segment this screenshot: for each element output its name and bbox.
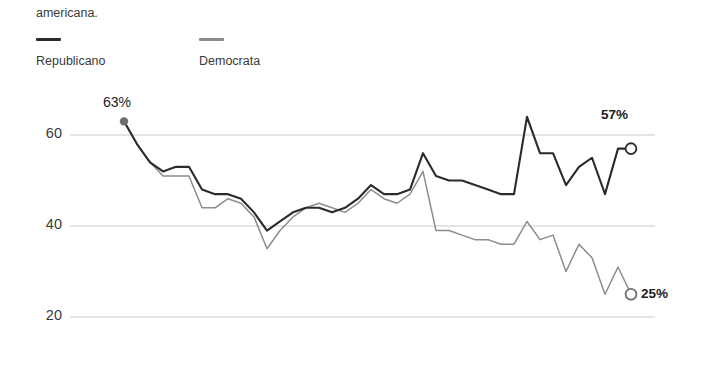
- legend-item-republicano[interactable]: Republicano: [36, 38, 106, 68]
- gridlines: [70, 135, 655, 317]
- paragraph-tail: americana.: [36, 5, 98, 21]
- y-axis-tick-label: 20: [28, 307, 62, 323]
- series-markers: [120, 117, 637, 300]
- legend-label-democrata: Democrata: [199, 54, 260, 68]
- chart-svg: [0, 86, 713, 336]
- democrata-end-label: 25%: [641, 286, 668, 301]
- line-swatch-icon: [36, 38, 61, 41]
- clipped-text-row: [0, 0, 713, 9]
- line-chart-plot: [0, 86, 713, 336]
- end-point-marker-republicano: [626, 143, 637, 154]
- start-point-marker: [120, 117, 128, 125]
- republicano-end-label: 57%: [601, 107, 628, 122]
- start-value-label: 63%: [103, 94, 131, 110]
- line-swatch-icon: [199, 38, 224, 41]
- end-point-marker-democrata: [626, 289, 637, 300]
- chart-page: americana. Republicano Democrata 204060 …: [0, 0, 713, 391]
- legend-item-democrata[interactable]: Democrata: [199, 38, 260, 68]
- series-lines: [124, 117, 631, 294]
- y-axis-tick-label: 60: [28, 125, 62, 141]
- series-line-democrata: [124, 121, 631, 294]
- series-line-republicano: [124, 117, 631, 231]
- legend-label-republicano: Republicano: [36, 54, 106, 68]
- chart-legend: Republicano Democrata: [36, 38, 436, 74]
- y-axis-tick-label: 40: [28, 216, 62, 232]
